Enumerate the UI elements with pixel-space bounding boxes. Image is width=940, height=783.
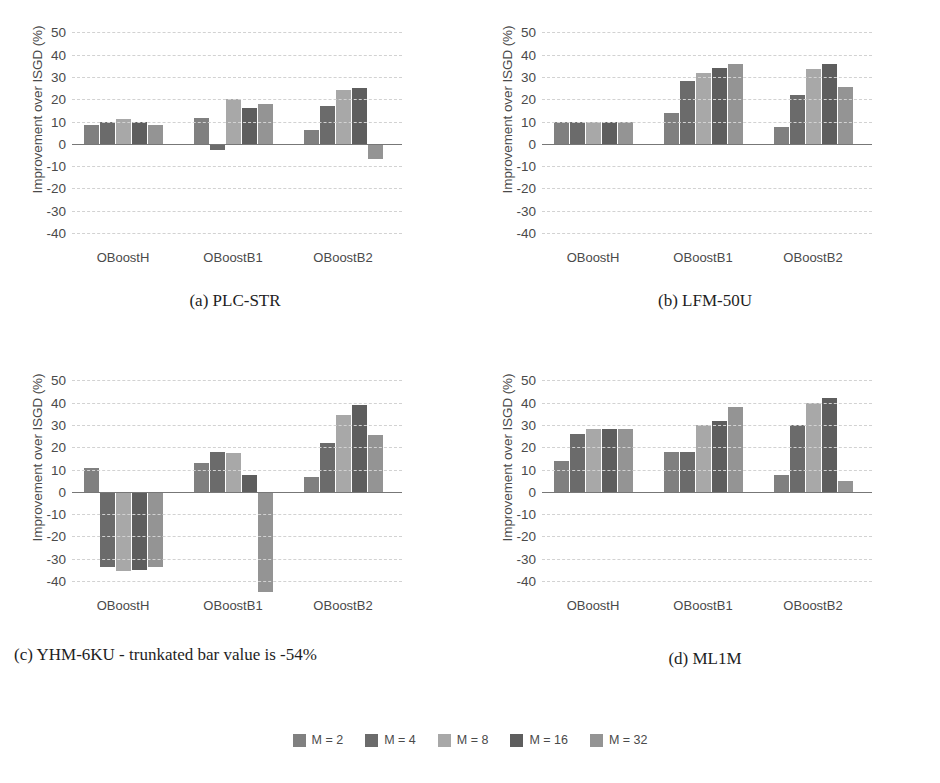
x-tick-label-oboostb2: OBoostB2 [313, 250, 372, 265]
bar [664, 452, 679, 492]
plot-area-b: Improvement over ISGD (%) 50403020100-10… [470, 14, 940, 264]
bar [728, 64, 743, 144]
bar [148, 492, 163, 568]
x-tick-label-oboostb1: OBoostB1 [203, 250, 262, 265]
caption-b: (b) LFM-50U [470, 290, 940, 312]
bar-group [72, 376, 182, 592]
gridline [72, 581, 402, 582]
panel-lfm-50u: Improvement over ISGD (%) 50403020100-10… [470, 0, 940, 340]
bar [696, 425, 711, 492]
y-tick-label: -20 [46, 529, 66, 544]
axis-a [72, 28, 402, 244]
bar-group [182, 376, 292, 592]
y-tick-label: 20 [51, 92, 66, 107]
bars-c [72, 376, 402, 592]
gridline [72, 559, 402, 560]
legend-item: M = 16 [510, 733, 568, 747]
caption-c: (c) YHM-6KU - trunkated bar value is -54… [14, 644, 434, 666]
y-axis-tick-labels-c: 50403020100-10-20-30-40 [28, 376, 66, 592]
y-tick-label: 30 [51, 417, 66, 432]
y-tick-label: 50 [521, 373, 536, 388]
x-tick-label-oboostb2: OBoostB2 [313, 598, 372, 613]
gridline [72, 32, 402, 33]
bar [554, 122, 569, 144]
bar [304, 477, 319, 491]
gridline [72, 166, 402, 167]
bar [712, 421, 727, 492]
bar-group [762, 376, 872, 592]
bar-group [292, 28, 402, 244]
axis-b [542, 28, 872, 244]
legend-label: M = 8 [457, 733, 489, 747]
y-tick-label: -30 [516, 203, 536, 218]
y-tick-label: 0 [528, 484, 536, 499]
bar [790, 95, 805, 144]
bar [226, 453, 241, 492]
panel-plc-str: Improvement over ISGD (%) 50403020100-10… [0, 0, 470, 340]
gridline [72, 55, 402, 56]
y-tick-label: 50 [51, 25, 66, 40]
gridline [542, 99, 872, 100]
bar [618, 122, 633, 144]
gridline [72, 122, 402, 123]
gridline [72, 536, 402, 537]
bar [100, 122, 115, 144]
gridline [542, 403, 872, 404]
bar-group [182, 28, 292, 244]
bars-b [542, 28, 872, 244]
bar [210, 144, 225, 151]
figure-bar-chart-grid: Improvement over ISGD (%) 50403020100-10… [0, 0, 940, 783]
bar [368, 144, 383, 160]
bar [84, 125, 99, 144]
plot-area-c: Improvement over ISGD (%) 50403020100-10… [0, 362, 470, 612]
x-tick-label-oboosth: OBoostH [97, 598, 150, 613]
gridline [542, 122, 872, 123]
bar-group [542, 376, 652, 592]
x-tick-label-oboosth: OBoostH [567, 598, 620, 613]
y-tick-label: 30 [51, 69, 66, 84]
gridline [72, 447, 402, 448]
y-tick-label: 20 [51, 440, 66, 455]
gridline [542, 77, 872, 78]
bars-d [542, 376, 872, 592]
bar [242, 108, 257, 144]
y-tick-label: -10 [46, 159, 66, 174]
gridline [72, 380, 402, 381]
y-tick-label: 10 [521, 114, 536, 129]
bar [148, 125, 163, 144]
gridline [542, 536, 872, 537]
caption-a: (a) PLC-STR [0, 290, 470, 312]
gridline [542, 447, 872, 448]
x-tick-label-oboostb2: OBoostB2 [783, 250, 842, 265]
bar [586, 122, 601, 144]
bar [806, 69, 821, 144]
bar [838, 481, 853, 492]
x-axis-tick-labels-a: OBoostHOBoostB1OBoostB2 [72, 250, 402, 270]
bar [116, 119, 131, 143]
bar [602, 429, 617, 491]
bar [602, 122, 617, 144]
gridline [72, 403, 402, 404]
y-tick-label: 0 [58, 136, 66, 151]
y-tick-label: 50 [521, 25, 536, 40]
caption-d: (d) ML1M [470, 648, 940, 670]
legend-item: M = 8 [438, 733, 489, 747]
gridline [72, 188, 402, 189]
bar-group [652, 376, 762, 592]
y-axis-tick-labels-a: 50403020100-10-20-30-40 [28, 28, 66, 244]
legend-label: M = 32 [609, 733, 648, 747]
gridline [542, 470, 872, 471]
x-tick-label-oboosth: OBoostH [97, 250, 150, 265]
legend-swatch-icon [590, 734, 603, 747]
gridline [72, 233, 402, 234]
bar [320, 106, 335, 144]
gridline [542, 55, 872, 56]
y-tick-label: 50 [51, 373, 66, 388]
bar [774, 475, 789, 492]
y-tick-label: 10 [521, 462, 536, 477]
gridline [72, 514, 402, 515]
bar [320, 443, 335, 492]
y-axis-tick-labels-b: 50403020100-10-20-30-40 [498, 28, 536, 244]
axis-d [542, 376, 872, 592]
bar [194, 463, 209, 492]
